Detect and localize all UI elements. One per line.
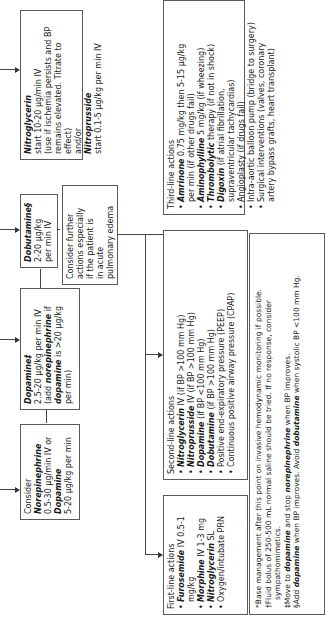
nitroglycerin-note-1: (use if ischemia persists and BP <box>44 16 54 154</box>
dopamine-dose: 2.5-20 µg/kg per min IV <box>34 294 44 404</box>
dobutamine-box: Dobutamine§ 2-20 µg/kg per min IV <box>20 194 58 268</box>
consider-further-line: if the patient is <box>86 191 96 279</box>
dopamine-note: (add norepinephrine if <box>44 294 54 404</box>
dopamine-dose: 5-20 µg/kg per min <box>64 430 74 514</box>
dopamine-note-2: dopamine is >20 µg/kg <box>54 294 64 404</box>
consider-label: Consider <box>24 430 34 514</box>
list-item: Furosemide IV 0.5-1 mg/kg <box>177 501 197 609</box>
footnote-dagger-cont: sympathomimetics. <box>273 240 283 608</box>
flowchart-canvas: Consider Norepinephrine 0.5-30 µg/min IV… <box>0 0 328 619</box>
third-line-title: Third-line actions <box>167 6 177 209</box>
footnote-section: §Add dopamine when BP improves. Avoid do… <box>292 240 302 608</box>
list-item: Morphine IV 1-3 mg <box>197 501 207 609</box>
list-item: Intra-aortic balloon pump (bridge to sur… <box>247 6 257 209</box>
nitroglycerin-dose: start 10-20 µg/min IV <box>34 16 44 154</box>
dopamine-title: Dopamine‡ <box>24 294 34 404</box>
second-line-title: Second-line actions <box>167 236 177 474</box>
list-item: Nitroglycerin SL <box>207 501 217 609</box>
list-item: Aminophylline 5 mg/kg (if wheezing) <box>197 6 207 209</box>
consider-further-box: Consider further actions especially if t… <box>62 185 118 285</box>
list-item: Positive end-expiratory pressure (PEEP) <box>217 236 227 474</box>
consider-further-line: pulmonary edema <box>106 191 116 279</box>
and-or-label: and/or <box>74 16 84 154</box>
list-item: Oxygen/intubate PRN <box>217 501 227 609</box>
norepinephrine-drug: Norepinephrine <box>34 430 44 514</box>
third-line-box: Third-line actions Amrinone 0.75 mg/kg t… <box>163 0 245 215</box>
first-line-list: Furosemide IV 0.5-1 mg/kg Morphine IV 1-… <box>177 501 227 609</box>
branch-third <box>145 234 163 235</box>
dopamine-drug: Dopamine <box>54 430 64 514</box>
footnote-dagger: †Fluid bolus of 250-500 mL normal saline… <box>264 240 274 608</box>
norepinephrine-dose: 0.5-30 µg/min IV or <box>44 430 54 514</box>
incoming-line-3 <box>0 229 16 230</box>
consider-further-line: actions especially <box>76 191 86 279</box>
nitroprusside-drug: Nitroprusside <box>84 16 94 154</box>
list-item: Nitroglycerin IV (if BP >100 mm Hg) <box>177 236 187 474</box>
footnote-star: *Base management after this point on inv… <box>254 240 264 608</box>
connector-dopamine-dobutamine <box>40 269 41 288</box>
dobutamine-dose-1: 2-20 µg/kg <box>34 200 44 262</box>
list-item: Angioplasty (if drugs fail) <box>237 6 247 209</box>
list-item: Dobutamine (if BP >100 mm Hg) <box>207 236 217 474</box>
incoming-line-4 <box>0 69 16 70</box>
connector-norepi-dopamine <box>46 410 47 423</box>
incoming-line-2 <box>0 339 16 340</box>
first-line-box: First-line actions Furosemide IV 0.5-1 m… <box>163 495 248 615</box>
connector-dobutamine-consider <box>58 229 60 230</box>
incoming-line-1 <box>0 489 16 490</box>
first-line-title: First-line actions <box>167 501 177 609</box>
nitroprusside-dose: start 0.1-5 µg/kg per min IV <box>94 16 104 154</box>
nitroglycerin-drug: Nitroglycerin <box>24 16 34 154</box>
branch-stem <box>118 234 145 235</box>
list-item: Nitroprusside IV (if BP >100 mm Hg) <box>187 236 197 474</box>
third-line-list: Amrinone 0.75 mg/kg then 5-15 µg/kgper m… <box>177 6 277 209</box>
list-item: Surgical interventions (valves, coronary… <box>257 6 277 209</box>
nitroglycerin-box: Nitroglycerin start 10-20 µg/min IV (use… <box>20 10 83 160</box>
dobutamine-title: Dobutamine§ <box>24 200 34 262</box>
list-item: Amrinone 0.75 mg/kg then 5-15 µg/kgper m… <box>177 6 197 209</box>
second-line-box: Second-line actions Nitroglycerin IV (if… <box>163 230 248 480</box>
list-item: Thrombolytic therapy (if not in shock) <box>207 6 217 209</box>
list-item: Continuous positive airway pressure (CPA… <box>227 236 237 474</box>
dopamine-note-3: per min) <box>64 294 74 404</box>
consider-further-line: in acute <box>96 191 106 279</box>
branch-horizontal <box>145 235 146 555</box>
second-line-list: Nitroglycerin IV (if BP >100 mm Hg) Nitr… <box>177 236 237 474</box>
footnotes-box: *Base management after this point on inv… <box>249 233 325 615</box>
dopamine-box: Dopamine‡ 2.5-20 µg/kg per min IV (add n… <box>20 288 80 410</box>
list-item: Digoxin (if atrial fibrillation,supraven… <box>217 6 237 209</box>
dobutamine-dose-2: per min IV <box>44 200 54 262</box>
list-item: Dopamine (if BP <100 mm Hg) <box>197 236 207 474</box>
norepinephrine-box: Consider Norepinephrine 0.5-30 µg/min IV… <box>20 424 80 520</box>
consider-further-line: Consider further <box>66 191 76 279</box>
nitroglycerin-note-2: remains elevated. Titrate to effect) <box>54 16 74 154</box>
footnote-ddagger: ‡Move to dopamine and stop norepinephrin… <box>283 240 293 608</box>
